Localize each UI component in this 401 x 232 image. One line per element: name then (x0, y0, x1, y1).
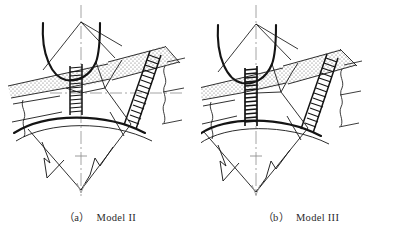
break-line-right-icon (340, 69, 343, 126)
caption-tag-a: （a） (64, 212, 90, 223)
block-line-6-icon (256, 92, 281, 93)
figure-panel-b: （b）Model III (201, 0, 401, 232)
caption-panel-b: （b）Model III (201, 209, 401, 224)
break-line-left-icon (210, 102, 213, 139)
wedge-left-edge-icon (28, 129, 81, 190)
caption-tag-b: （b） (263, 212, 289, 223)
crack-left-icon (218, 145, 239, 181)
caption-label-a: Model II (97, 212, 136, 223)
arch-right-wall-icon (96, 23, 100, 62)
figure-root: （a）Model II (0, 0, 401, 232)
wedge-left-edge-icon (204, 132, 256, 192)
break-tick-right-2-icon (340, 91, 361, 95)
figure-panel-a: （a）Model II (0, 0, 200, 232)
caption-panel-a: （a）Model II (0, 209, 200, 224)
wedge-right-edge-icon (256, 128, 308, 192)
strata-lower-left-icon (13, 96, 60, 104)
roof-wedge-left-edge-icon (218, 24, 256, 72)
break-line-right-icon (163, 66, 166, 123)
strata-lower-left2-icon (12, 112, 62, 122)
roof-wedge-left-edge-icon (43, 22, 81, 70)
v-shaped-failure-wedge (28, 112, 131, 190)
caption-label-b: Model III (296, 212, 339, 223)
crack-left-icon (42, 142, 64, 178)
diagram-model-2 (0, 0, 200, 232)
diagram-model-3 (201, 0, 401, 232)
break-line-left-icon (22, 100, 25, 137)
zigzag-crack-lines (42, 142, 113, 190)
break-tick-right-2-icon (163, 88, 184, 92)
roof-wedge-right-edge2-icon (81, 22, 122, 46)
zigzag-crack-lines (218, 145, 290, 192)
strata-lower-left-icon (203, 100, 235, 106)
